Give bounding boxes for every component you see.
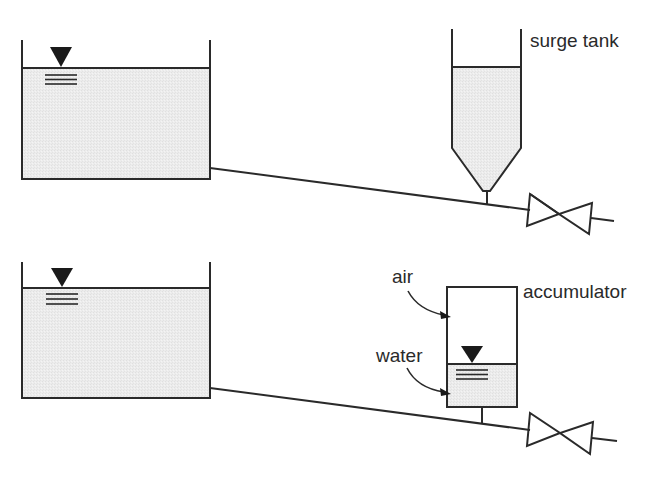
air-label: air: [392, 266, 414, 287]
top-system: surge tank: [22, 29, 619, 234]
free-surface-marker-icon: [461, 346, 483, 363]
bottom-reservoir: [22, 262, 210, 398]
free-surface-marker-icon: [50, 47, 72, 67]
bottom-valve-icon: [527, 413, 617, 454]
air-arrow-icon: [408, 291, 444, 315]
top-reservoir: [22, 40, 210, 179]
accumulator-label: accumulator: [523, 281, 627, 302]
water-arrow-icon: [407, 368, 444, 392]
free-surface-marker-icon: [51, 268, 73, 287]
surge-tank-water: [453, 67, 521, 191]
surge-tank-label: surge tank: [530, 30, 619, 51]
bottom-system: accumulator air water: [22, 262, 627, 454]
top-valve-icon: [527, 194, 614, 234]
water-label: water: [375, 345, 423, 366]
water-callout: water: [375, 345, 451, 396]
surge-tank: surge tank: [452, 29, 619, 205]
hydraulic-diagram: surge tank: [0, 0, 665, 480]
air-callout: air: [392, 266, 451, 319]
accumulator: accumulator: [447, 281, 627, 424]
